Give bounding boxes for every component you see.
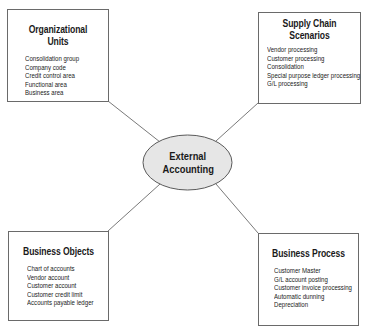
box-title: Business Process: [268, 247, 349, 259]
central-node: External Accounting: [143, 135, 233, 191]
central-node-label-line1: External: [170, 150, 207, 163]
item-list: Consolidation group Company code Credit …: [25, 55, 91, 98]
box-business-process: Business Process Customer Master G/L acc…: [258, 233, 359, 326]
box-title: Business Objects: [18, 245, 99, 257]
connector-business-objects: [108, 184, 160, 231]
list-item: Accounts payable ledger: [27, 299, 92, 308]
box-business-objects: Business Objects Chart of accounts Vendo…: [8, 231, 109, 321]
box-title-line2: Scenarios: [268, 29, 351, 41]
list-item: Business area: [25, 89, 91, 98]
list-item: G/L processing: [267, 80, 341, 89]
item-list: Customer Master G/L account posting Cust…: [274, 267, 341, 310]
box-supply-chain-scenarios: Supply Chain Scenarios Vendor processing…: [258, 12, 361, 104]
item-list: Chart of accounts Vendor account Custome…: [27, 265, 92, 308]
connector-business-process: [216, 184, 258, 233]
list-item: Depreciation: [274, 301, 341, 310]
central-node-label-line2: Accounting: [162, 163, 213, 176]
box-organizational-units: Organizational Units Consolidation group…: [7, 9, 109, 102]
box-title: Organizational Units: [17, 23, 99, 47]
item-list: Vendor processing Customer processing Co…: [267, 46, 341, 89]
box-title-line1: Supply Chain: [268, 17, 351, 29]
